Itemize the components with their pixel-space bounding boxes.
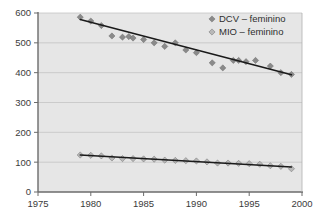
y-axis-ticks: 0100200300400500600 [15, 7, 38, 197]
x-tick-label: 2000 [291, 198, 312, 209]
x-tick-label: 1995 [239, 198, 260, 209]
y-tick-label: 100 [15, 157, 31, 168]
legend-label-2: MIO – feminino [219, 26, 283, 37]
scatter-chart: 0100200300400500600197519801985199019952… [0, 0, 319, 219]
y-tick-label: 0 [26, 186, 31, 197]
x-tick-label: 1985 [133, 198, 154, 209]
y-tick-label: 200 [15, 127, 31, 138]
x-tick-label: 1980 [80, 198, 101, 209]
y-tick-label: 400 [15, 67, 31, 78]
legend-label-1: DCV – feminino [219, 13, 286, 24]
cut-off-caption [6, 215, 313, 219]
x-axis-ticks: 197519801985199019952000 [27, 192, 312, 209]
y-tick-label: 600 [15, 7, 31, 18]
x-tick-label: 1975 [27, 198, 48, 209]
y-tick-label: 300 [15, 97, 31, 108]
chart-figure: 0100200300400500600197519801985199019952… [0, 0, 319, 219]
y-tick-label: 500 [15, 37, 31, 48]
x-tick-label: 1990 [186, 198, 207, 209]
